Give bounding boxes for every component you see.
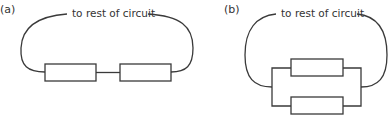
diagram-b-parallel: (b) to rest of circuit — [224, 3, 387, 114]
circuit-diagrams: (a) to rest of circuit (b) to rest of ci… — [0, 0, 388, 128]
diagram-b-left-junction — [272, 68, 291, 106]
diagram-a-series: (a) to rest of circuit — [0, 3, 193, 81]
diagram-a-label: (a) — [0, 3, 15, 16]
diagram-b-resistor-bottom — [291, 97, 343, 114]
diagram-b-caption: to rest of circuit — [281, 7, 364, 19]
diagram-b-right-junction — [343, 68, 361, 106]
diagram-a-caption: to rest of circuit — [72, 7, 155, 19]
diagram-a-resistor-2 — [120, 64, 171, 81]
diagram-a-left-wire — [21, 14, 67, 72]
diagram-b-resistor-top — [291, 59, 343, 76]
diagram-b-label: (b) — [224, 3, 240, 16]
diagram-a-right-wire — [148, 14, 193, 72]
diagram-a-resistor-1 — [45, 64, 96, 81]
